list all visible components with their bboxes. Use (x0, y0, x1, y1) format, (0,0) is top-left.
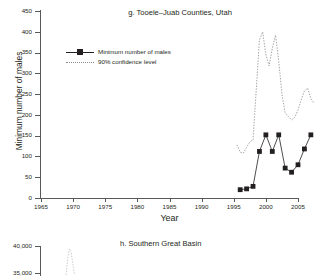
y-tick-mark (35, 115, 40, 116)
data-point-marker (270, 149, 275, 154)
data-point-marker (276, 132, 281, 137)
x-tick-mark (105, 198, 106, 202)
y-tick-mark (35, 136, 40, 137)
minimum-males-line (240, 135, 311, 190)
x-tick-mark (298, 198, 299, 202)
y-tick-label: 50 (0, 174, 32, 180)
y-tick-mark (35, 198, 40, 199)
panel-h-confidence-line (66, 249, 75, 275)
x-tick-label: 1975 (88, 204, 122, 210)
y-tick-mark (35, 11, 40, 12)
x-tick-mark (137, 198, 138, 202)
y-tick-mark (35, 32, 40, 33)
x-tick-mark (170, 198, 171, 202)
x-tick-mark (266, 198, 267, 202)
data-point-marker (251, 184, 256, 189)
y-tick-mark (35, 94, 40, 95)
x-tick-mark (202, 198, 203, 202)
y-tick-mark (35, 156, 40, 157)
data-point-marker (289, 170, 294, 175)
confidence-level-line (237, 32, 314, 153)
x-tick-label: 2000 (249, 204, 283, 210)
x-tick-label: 1990 (185, 204, 219, 210)
x-tick-mark (41, 198, 42, 202)
x-tick-mark (73, 198, 74, 202)
x-tick-label: 2005 (281, 204, 315, 210)
data-point-marker (244, 186, 249, 191)
data-point-marker (257, 149, 262, 154)
y-tick-mark (35, 177, 40, 178)
y-tick-mark (35, 73, 40, 74)
data-point-marker (302, 147, 307, 152)
x-tick-label: 1980 (120, 204, 154, 210)
y-tick-label: 100 (0, 153, 32, 159)
y-tick-label: 300 (0, 70, 32, 76)
x-tick-label: 1965 (24, 204, 58, 210)
panel-g-plot-area (41, 11, 298, 198)
panel-h-southern-great-basin: h. Southern Great Basin 40,00035,000 (0, 232, 319, 275)
y-tick-label: 250 (0, 91, 32, 97)
y-tick-mark (35, 53, 40, 54)
data-point-marker (296, 162, 301, 167)
x-tick-label: 1995 (217, 204, 251, 210)
y-tick-label: 200 (0, 112, 32, 118)
y-tick-label: 0 (0, 195, 32, 201)
panel-h-plot-area (0, 232, 319, 275)
data-point-marker (263, 132, 268, 137)
y-tick-label: 350 (0, 49, 32, 55)
x-tick-label: 1970 (56, 204, 90, 210)
y-tick-label: 450 (0, 8, 32, 14)
data-point-marker (283, 166, 288, 171)
y-tick-label: 150 (0, 132, 32, 138)
data-point-marker (238, 187, 243, 192)
panel-g-tooele-juab: g. Tooele–Juab Counties, Utah Minimum nu… (0, 0, 319, 232)
panel-g-x-axis-label: Year (41, 213, 298, 223)
x-tick-mark (234, 198, 235, 202)
x-tick-label: 1985 (153, 204, 187, 210)
y-tick-label: 400 (0, 29, 32, 35)
data-point-marker (308, 132, 313, 137)
minimum-males-markers (238, 132, 313, 192)
